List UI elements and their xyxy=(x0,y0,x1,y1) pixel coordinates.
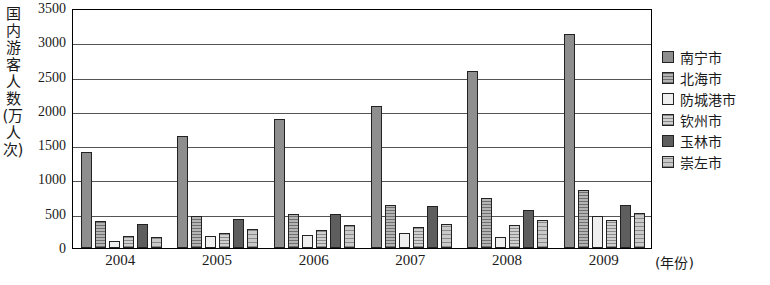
legend: 南宁市北海市防城港市钦州市玉林市崇左市 xyxy=(662,46,766,172)
x-tick-label: 2007 xyxy=(395,252,425,269)
y-tick-label: 1000 xyxy=(38,172,66,188)
legend-item: 玉林市 xyxy=(662,130,766,151)
y-tick-label: 2000 xyxy=(38,104,66,120)
legend-swatch xyxy=(662,156,674,168)
legend-swatch xyxy=(662,51,674,63)
legend-item: 南宁市 xyxy=(662,46,766,67)
x-tick-label: 2006 xyxy=(299,252,329,269)
legend-label: 南宁市 xyxy=(680,47,722,67)
bar-group xyxy=(363,10,460,248)
bar xyxy=(385,205,396,248)
chart-root: 国内游客人数(万人次) 0500100015002000250030003500… xyxy=(0,0,770,285)
bar xyxy=(191,216,202,248)
legend-swatch xyxy=(662,72,674,84)
bar-group xyxy=(266,10,363,248)
bar xyxy=(177,136,188,248)
bar xyxy=(441,224,452,248)
bar xyxy=(233,219,244,248)
legend-item: 北海市 xyxy=(662,67,766,88)
y-tick-label: 3500 xyxy=(38,1,66,17)
y-tick-label: 3000 xyxy=(38,35,66,51)
bar xyxy=(151,237,162,248)
bar xyxy=(620,205,631,248)
bar xyxy=(592,216,603,248)
bar xyxy=(634,213,645,248)
y-tick-label: 500 xyxy=(45,207,66,223)
legend-label: 崇左市 xyxy=(680,152,722,172)
y-axis-tick-labels: 0500100015002000250030003500 xyxy=(24,4,68,256)
bar xyxy=(109,241,120,248)
bar xyxy=(578,190,589,248)
bar-group xyxy=(460,10,557,248)
legend-swatch xyxy=(662,114,674,126)
bar xyxy=(288,214,299,248)
bar xyxy=(537,220,548,248)
x-tick-label: 2005 xyxy=(202,252,232,269)
legend-swatch xyxy=(662,93,674,105)
bar xyxy=(330,214,341,248)
bar xyxy=(371,106,382,248)
x-tick-label: 2009 xyxy=(589,252,619,269)
bar xyxy=(523,210,534,248)
bar xyxy=(564,34,575,248)
x-tick-label: 2008 xyxy=(492,252,522,269)
bar xyxy=(316,230,327,249)
legend-label: 防城港市 xyxy=(680,89,736,109)
bar xyxy=(509,225,520,248)
legend-item: 崇左市 xyxy=(662,151,766,172)
bar xyxy=(495,237,506,248)
legend-item: 防城港市 xyxy=(662,88,766,109)
x-axis-tick-labels: 200420052006200720082009 xyxy=(72,252,652,274)
y-tick-label: 1500 xyxy=(38,138,66,154)
y-axis-title: 国内游客人数(万人次) xyxy=(2,6,24,264)
legend-swatch xyxy=(662,135,674,147)
bar xyxy=(467,71,478,248)
legend-label: 玉林市 xyxy=(680,131,722,151)
bar xyxy=(274,119,285,248)
bar xyxy=(302,235,313,248)
bar xyxy=(123,236,134,248)
bar xyxy=(137,224,148,248)
bar xyxy=(399,233,410,248)
bar xyxy=(247,229,258,248)
bar xyxy=(81,152,92,248)
bar xyxy=(205,236,216,248)
legend-item: 钦州市 xyxy=(662,109,766,130)
bar xyxy=(95,221,106,248)
plot-area xyxy=(72,9,652,249)
bar xyxy=(344,225,355,248)
bar xyxy=(606,220,617,248)
bar-group xyxy=(556,10,653,248)
bar xyxy=(413,227,424,248)
bar xyxy=(427,206,438,249)
y-tick-label: 2500 xyxy=(38,70,66,86)
y-tick-label: 0 xyxy=(59,241,66,257)
x-tick-label: 2004 xyxy=(105,252,135,269)
bar xyxy=(219,233,230,248)
bar-group xyxy=(170,10,267,248)
bar xyxy=(481,198,492,248)
x-axis-unit-label: (年份) xyxy=(655,252,694,272)
legend-label: 北海市 xyxy=(680,68,722,88)
legend-label: 钦州市 xyxy=(680,110,722,130)
bar-group xyxy=(73,10,170,248)
